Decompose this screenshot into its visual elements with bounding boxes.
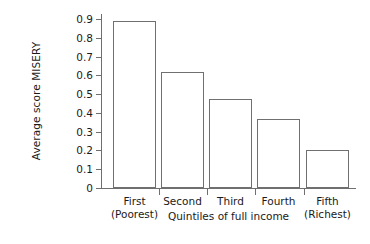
x-axis-tick bbox=[207, 188, 208, 195]
bar bbox=[209, 99, 252, 188]
y-axis-tick bbox=[96, 188, 101, 189]
y-axis-tick-label: 0.6 bbox=[53, 70, 93, 80]
bar bbox=[257, 119, 300, 188]
x-axis-tick bbox=[255, 188, 256, 195]
bar-chart: Average score MISERY 0.90.80.70.60.50.40… bbox=[0, 0, 370, 244]
bar bbox=[161, 72, 204, 188]
y-axis-tick-label: 0.7 bbox=[53, 52, 93, 62]
x-axis-tick bbox=[159, 188, 160, 195]
y-axis-tick-label: 0.4 bbox=[53, 108, 93, 118]
y-axis-title: Average score MISERY bbox=[28, 6, 44, 196]
bar bbox=[113, 21, 156, 188]
y-axis-tick-label: 0 bbox=[53, 183, 93, 193]
y-axis-tick-label: 0.9 bbox=[53, 14, 93, 24]
x-axis-title: Quintiles of full income bbox=[101, 210, 356, 222]
plot-area bbox=[101, 19, 355, 188]
x-axis-category-label-line1: Fifth bbox=[316, 195, 338, 207]
y-axis-tick-label: 0.1 bbox=[53, 164, 93, 174]
x-axis-line bbox=[101, 188, 356, 189]
x-axis-tick bbox=[304, 188, 305, 195]
y-axis-tick-label: 0.5 bbox=[53, 89, 93, 99]
bar bbox=[306, 150, 349, 188]
y-axis-tick-label: 0.2 bbox=[53, 145, 93, 155]
y-axis-tick-label: 0.8 bbox=[53, 33, 93, 43]
y-axis-tick-label: 0.3 bbox=[53, 127, 93, 137]
